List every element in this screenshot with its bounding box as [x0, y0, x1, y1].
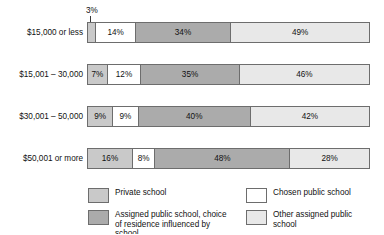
segment-assigned-2[interactable]: 35% [141, 65, 239, 84]
legend-label-assigned-line1: Assigned public school, choice [115, 210, 227, 220]
segment-chosen-4[interactable]: 8% [133, 149, 155, 168]
legend-item-chosen[interactable]: Chosen public school [246, 188, 351, 203]
segment-private-3[interactable]: 9% [88, 107, 113, 126]
legend-item-assigned[interactable]: Assigned public school, choice of reside… [88, 210, 227, 234]
segment-assigned-4[interactable]: 48% [155, 149, 290, 168]
legend-label-other-line1: Other assigned public [273, 210, 352, 220]
segment-other-4[interactable]: 28% [290, 149, 369, 168]
legend-label-other-line2: school [273, 220, 352, 230]
segment-other-3[interactable]: 42% [251, 107, 369, 126]
segment-assigned-1[interactable]: 34% [136, 23, 232, 42]
table-row: $30,001 – 50,000 9% 9% 40% 42% [0, 106, 384, 128]
row-label-income-1: $15,000 or less [0, 22, 83, 44]
segment-chosen-2[interactable]: 12% [108, 65, 142, 84]
legend-swatch-private-icon [88, 188, 109, 203]
table-row: $15,000 or less 14% 34% 49% [0, 22, 384, 44]
bar-track-1: 14% 34% 49% [87, 22, 370, 43]
stacked-bar-chart: 3% $15,000 or less 14% 34% 49% $15,001 –… [0, 0, 384, 234]
callout-3-percent-label: 3% [86, 6, 98, 15]
row-label-income-3: $30,001 – 50,000 [0, 106, 83, 128]
legend-label-private-line1: Private school [115, 188, 166, 197]
legend-swatch-chosen-icon [246, 188, 267, 203]
legend-item-private[interactable]: Private school [88, 188, 166, 203]
segment-private-2[interactable]: 7% [88, 65, 108, 84]
legend-label-chosen-line1: Chosen public school [273, 188, 351, 197]
row-label-income-4: $50,001 or more [0, 148, 83, 170]
segment-chosen-3[interactable]: 9% [113, 107, 138, 126]
bar-track-3: 9% 9% 40% 42% [87, 106, 370, 127]
legend-swatch-other-icon [246, 210, 267, 225]
segment-assigned-3[interactable]: 40% [139, 107, 251, 126]
legend-label-assigned-line2: of residence influenced by school [115, 220, 227, 235]
legend-item-other[interactable]: Other assigned public school [246, 210, 352, 229]
segment-chosen-1[interactable]: 14% [96, 23, 135, 42]
table-row: $50,001 or more 16% 8% 48% 28% [0, 148, 384, 170]
legend-swatch-assigned-icon [88, 210, 109, 225]
segment-private-4[interactable]: 16% [88, 149, 133, 168]
segment-other-2[interactable]: 46% [240, 65, 369, 84]
segment-other-1[interactable]: 49% [231, 23, 369, 42]
row-label-income-2: $15,001 – 30,000 [0, 64, 83, 86]
bar-track-2: 7% 12% 35% 46% [87, 64, 370, 85]
table-row: $15,001 – 30,000 7% 12% 35% 46% [0, 64, 384, 86]
chart-legend: Private school Chosen public school Assi… [0, 186, 384, 234]
segment-private-1[interactable] [88, 23, 96, 42]
bar-track-4: 16% 8% 48% 28% [87, 148, 370, 169]
